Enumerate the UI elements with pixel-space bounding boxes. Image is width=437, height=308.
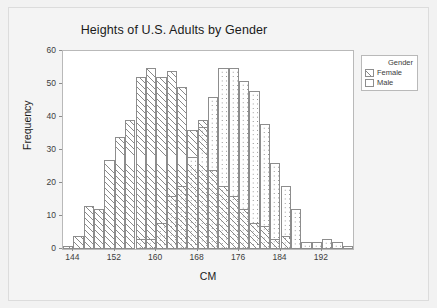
histogram-bar xyxy=(229,196,239,249)
histogram-bar xyxy=(156,223,166,249)
figure-panel: Heights of U.S. Adults by Gender Frequen… xyxy=(8,7,429,301)
histogram-bar xyxy=(84,206,94,249)
histogram-bar xyxy=(167,196,177,249)
histogram-bar xyxy=(270,163,280,249)
legend-title: Gender xyxy=(365,58,414,67)
histogram-bar xyxy=(281,236,291,249)
legend-swatch-male-icon xyxy=(365,79,374,87)
y-tick-label: 30 xyxy=(38,144,56,154)
y-axis-label: Frequency xyxy=(21,100,33,150)
y-tick-label: 40 xyxy=(38,111,56,121)
x-tick-label: 144 xyxy=(65,252,79,262)
y-tick-label: 20 xyxy=(38,177,56,187)
x-tick-label: 152 xyxy=(107,252,121,262)
x-tick-label: 168 xyxy=(190,252,204,262)
histogram-bar xyxy=(260,226,270,249)
histogram-bar xyxy=(332,242,342,249)
x-tick-label: 184 xyxy=(272,252,286,262)
histogram-bar xyxy=(125,120,135,249)
histogram-bar xyxy=(146,239,156,249)
histogram-bar xyxy=(312,242,322,249)
plot-area xyxy=(62,50,354,250)
histogram-bar xyxy=(301,242,311,249)
histogram-bar xyxy=(73,236,83,249)
histogram-bar xyxy=(136,77,146,249)
y-tick-label: 0 xyxy=(38,243,56,253)
x-axis-label: CM xyxy=(62,270,354,282)
histogram-bar xyxy=(104,160,114,249)
legend-label-male: Male xyxy=(377,78,393,87)
histogram-bar xyxy=(187,157,197,249)
histogram-bar xyxy=(208,170,218,249)
histogram-bar xyxy=(136,239,146,249)
y-tick-label: 10 xyxy=(38,210,56,220)
histogram-bar xyxy=(322,239,332,249)
legend-swatch-female-icon xyxy=(365,69,374,77)
histogram-bar xyxy=(63,246,73,249)
histogram-bar xyxy=(218,186,228,249)
histogram-bar xyxy=(94,209,104,249)
histogram-bar xyxy=(239,209,249,249)
legend: Gender Female Male xyxy=(361,55,418,91)
x-tick-label: 160 xyxy=(148,252,162,262)
legend-label-female: Female xyxy=(377,68,402,77)
y-tick-label: 50 xyxy=(38,78,56,88)
histogram-bar xyxy=(270,239,280,249)
x-tick-label: 176 xyxy=(231,252,245,262)
bars-container xyxy=(63,51,353,249)
legend-item-female[interactable]: Female xyxy=(365,68,414,77)
histogram-bar xyxy=(177,186,187,249)
histogram-bar xyxy=(198,127,208,249)
histogram-bar xyxy=(115,137,125,249)
histogram-bar xyxy=(146,68,156,250)
histogram-bar xyxy=(343,246,353,249)
histogram-bar xyxy=(249,223,259,249)
chart-title: Heights of U.S. Adults by Gender xyxy=(9,23,339,37)
legend-item-male[interactable]: Male xyxy=(365,78,414,87)
histogram-bar xyxy=(291,209,301,249)
x-tick-label: 192 xyxy=(314,252,328,262)
y-tick-label: 60 xyxy=(38,45,56,55)
